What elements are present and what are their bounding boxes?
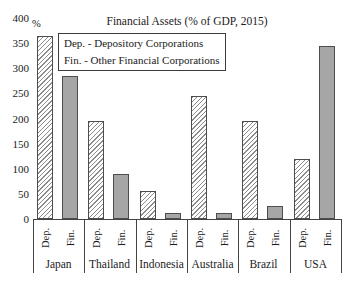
y-axis-tick-label-50: 50 [0, 188, 29, 200]
y-axis-tick-label-250: 250 [0, 87, 29, 99]
category-label-japan: Japan [33, 257, 84, 272]
bar-indonesia-dep [140, 191, 156, 219]
y-axis-tick-label-150: 150 [0, 138, 29, 150]
bar-thailand-dep [88, 121, 104, 219]
bar-thailand-fin [113, 174, 129, 219]
group-separator [290, 219, 291, 273]
y-axis-tick-label-300: 300 [0, 62, 29, 74]
bar-brazil-dep [242, 121, 258, 219]
group-separator [341, 219, 342, 273]
y-axis-tick-label-400: 400 [0, 12, 29, 24]
category-label-usa: USA [290, 257, 341, 272]
group-separator [136, 219, 137, 273]
bar-usa-dep [294, 159, 310, 219]
category-label-brazil: Brazil [238, 257, 289, 272]
bar-japan-fin [62, 76, 78, 219]
bar-chart-figure: Financial Assets (% of GDP, 2015) % Dep.… [0, 0, 345, 283]
category-label-thailand: Thailand [84, 257, 135, 272]
plot-area: 050100150200250300350400Dep.Fin.JapanDep… [0, 0, 345, 283]
group-separator [187, 219, 188, 273]
bar-tick-label-usa-fin: Fin. [311, 222, 343, 254]
group-separator [238, 219, 239, 273]
bar-usa-fin [319, 46, 335, 219]
y-axis-tick-label-200: 200 [0, 113, 29, 125]
category-label-indonesia: Indonesia [136, 257, 187, 272]
y-axis-tick-label-350: 350 [0, 37, 29, 49]
y-axis-tick-label-100: 100 [0, 163, 29, 175]
group-separator [84, 219, 85, 273]
category-label-australia: Australia [187, 257, 238, 272]
bar-brazil-fin [267, 206, 283, 219]
group-separator [33, 219, 34, 273]
bar-japan-dep [37, 36, 53, 219]
y-axis-tick-label-0: 0 [0, 213, 29, 225]
bar-australia-dep [191, 96, 207, 219]
